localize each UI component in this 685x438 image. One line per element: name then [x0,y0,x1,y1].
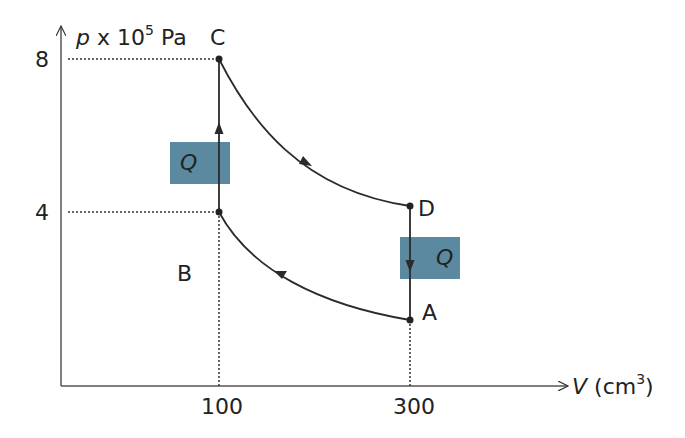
y-axis-label: p x 105 Pa [75,22,187,50]
point-label-a: A [422,300,437,325]
heat-in-label: Q [180,150,197,175]
arrow-right-icon [299,156,312,166]
guide-lines [68,59,410,386]
x-tick-100: 100 [201,394,243,419]
heat-out-label: Q [436,245,453,270]
x-tick-300: 300 [393,394,435,419]
point-label-d: D [418,196,435,221]
x-axis-label: V (cm3) [572,371,654,399]
point-label-b: B [177,261,192,286]
y-tick-8: 8 [35,47,49,72]
arrow-up-icon [215,122,224,134]
heat-in-box [170,142,230,184]
y-tick-4: 4 [35,200,49,225]
point-label-c: C [210,25,225,50]
cycle-path [219,59,410,320]
pv-diagram: C D A B Q Q 8 4 100 300 p x 105 Pa V (cm… [0,0,685,438]
state-points [216,56,414,324]
